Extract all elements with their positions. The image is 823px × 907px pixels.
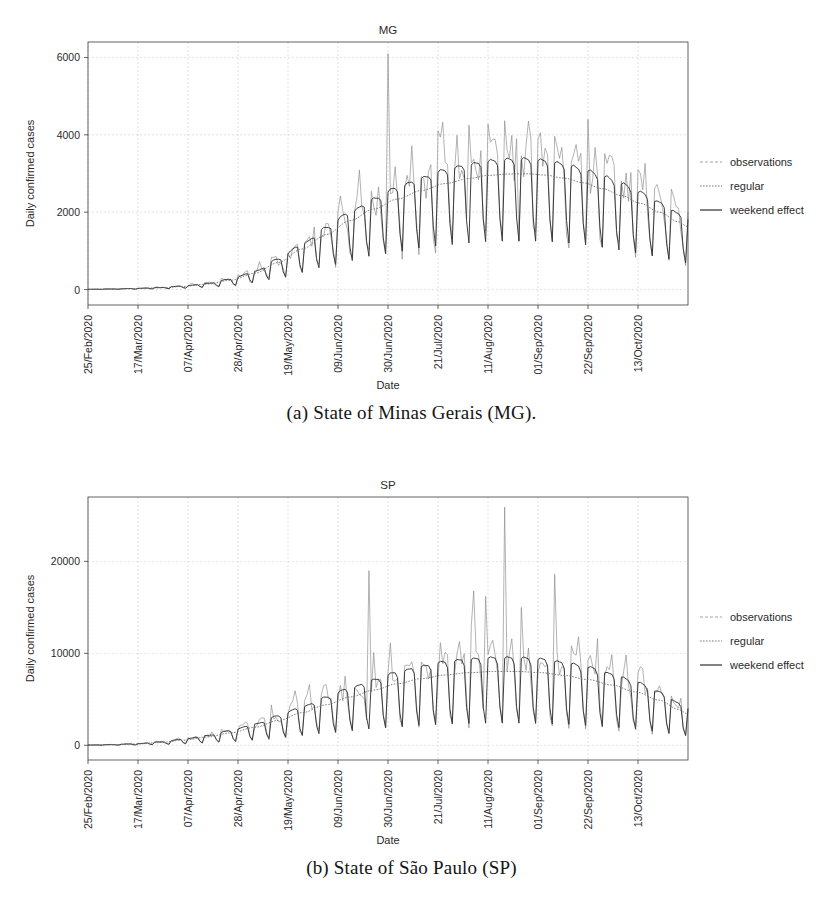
plot-title: SP bbox=[380, 479, 396, 491]
chart-minas-gerais: MG020004000600025/Feb/202017/Mar/202007/… bbox=[0, 0, 823, 400]
x-tick-label: 01/Sep/2020 bbox=[532, 770, 544, 830]
legend-label-regular: regular bbox=[730, 180, 765, 192]
x-tick-label: 09/Jun/2020 bbox=[332, 770, 344, 828]
legend-label-weekend-effect: weekend effect bbox=[729, 204, 804, 216]
figure-page: MG020004000600025/Feb/202017/Mar/202007/… bbox=[0, 0, 823, 907]
x-tick-label: 22/Sep/2020 bbox=[582, 770, 594, 830]
x-tick-label: 22/Sep/2020 bbox=[582, 315, 594, 375]
subfigure-caption-a: (a) State of Minas Gerais (MG). bbox=[0, 402, 823, 424]
chart-svg-sp: SP0100002000025/Feb/202017/Mar/202007/Ap… bbox=[0, 455, 823, 855]
y-axis-title: Daily confirmed cases bbox=[24, 574, 36, 682]
subfigure-sao-paulo: SP0100002000025/Feb/202017/Mar/202007/Ap… bbox=[0, 455, 823, 907]
x-tick-label: 28/Apr/2020 bbox=[232, 770, 244, 827]
x-tick-label: 11/Aug/2020 bbox=[482, 770, 494, 829]
x-tick-label: 25/Feb/2020 bbox=[82, 770, 94, 829]
x-tick-label: 17/Mar/2020 bbox=[132, 315, 144, 374]
legend-label-weekend-effect: weekend effect bbox=[729, 659, 804, 671]
x-axis-title: Date bbox=[376, 834, 399, 846]
x-tick-label: 30/Jun/2020 bbox=[382, 315, 394, 373]
plot-title: MG bbox=[379, 24, 398, 36]
x-tick-label: 19/May/2020 bbox=[282, 770, 294, 831]
x-tick-label: 21/Jul/2020 bbox=[432, 770, 444, 824]
y-tick-label: 0 bbox=[74, 284, 80, 296]
x-tick-label: 07/Apr/2020 bbox=[182, 315, 194, 372]
y-tick-label: 0 bbox=[74, 739, 80, 751]
y-tick-label: 20000 bbox=[51, 555, 80, 567]
legend-label-regular: regular bbox=[730, 635, 765, 647]
x-tick-label: 13/Oct/2020 bbox=[632, 315, 644, 372]
x-tick-label: 17/Mar/2020 bbox=[132, 770, 144, 829]
x-tick-label: 09/Jun/2020 bbox=[332, 315, 344, 373]
subfigure-minas-gerais: MG020004000600025/Feb/202017/Mar/202007/… bbox=[0, 0, 823, 455]
legend-label-observations: observations bbox=[730, 156, 793, 168]
plot-frame bbox=[88, 497, 688, 760]
y-tick-label: 2000 bbox=[57, 206, 81, 218]
legend-label-observations: observations bbox=[730, 611, 793, 623]
x-tick-label: 30/Jun/2020 bbox=[382, 770, 394, 828]
x-tick-label: 21/Jul/2020 bbox=[432, 315, 444, 369]
y-tick-label: 6000 bbox=[57, 51, 81, 63]
x-tick-label: 07/Apr/2020 bbox=[182, 770, 194, 827]
y-tick-label: 10000 bbox=[51, 647, 80, 659]
y-tick-label: 4000 bbox=[57, 129, 81, 141]
subfigure-caption-b: (b) State of São Paulo (SP) bbox=[0, 857, 823, 879]
y-axis-title: Daily confirmed cases bbox=[24, 119, 36, 227]
x-tick-label: 01/Sep/2020 bbox=[532, 315, 544, 375]
x-tick-label: 13/Oct/2020 bbox=[632, 770, 644, 827]
chart-sao-paulo: SP0100002000025/Feb/202017/Mar/202007/Ap… bbox=[0, 455, 823, 855]
x-tick-label: 25/Feb/2020 bbox=[82, 315, 94, 374]
x-tick-label: 19/May/2020 bbox=[282, 315, 294, 376]
x-axis-title: Date bbox=[376, 379, 399, 391]
plot-frame bbox=[88, 42, 688, 305]
chart-svg-mg: MG020004000600025/Feb/202017/Mar/202007/… bbox=[0, 0, 823, 400]
x-tick-label: 11/Aug/2020 bbox=[482, 315, 494, 374]
x-tick-label: 28/Apr/2020 bbox=[232, 315, 244, 372]
